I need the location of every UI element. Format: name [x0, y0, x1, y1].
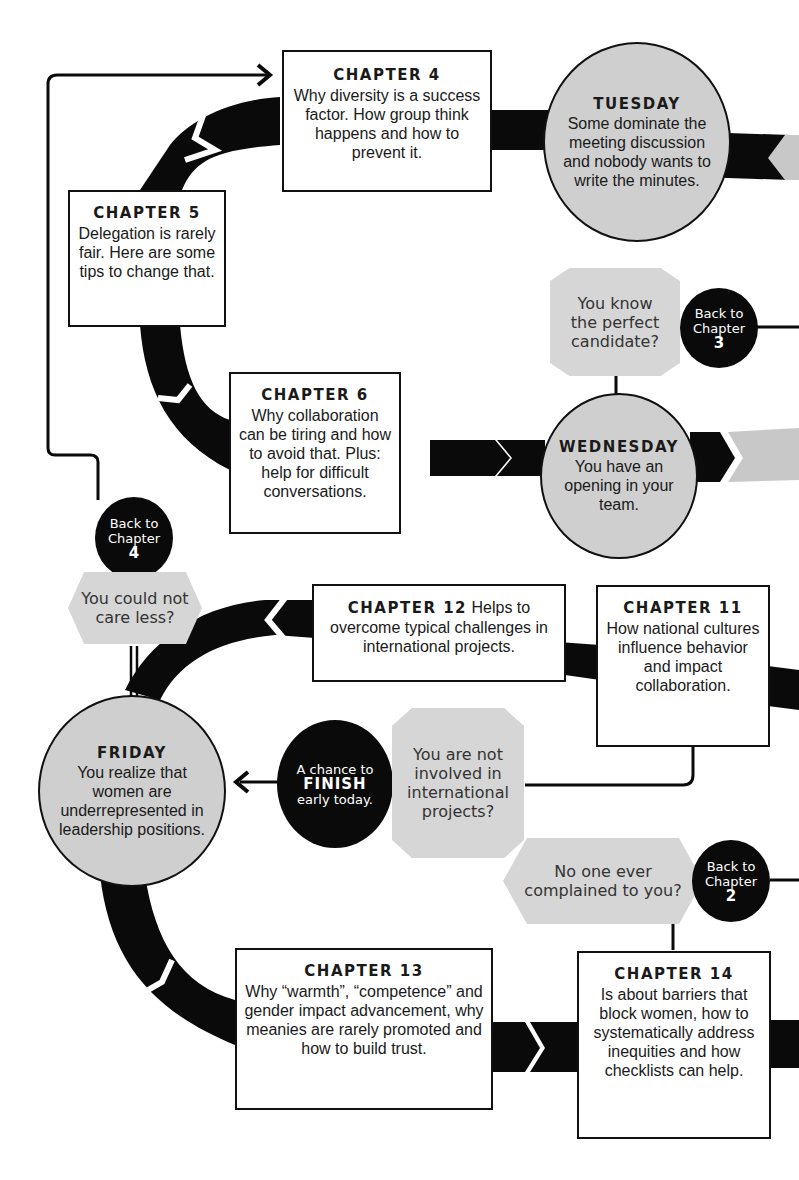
chapter-5-title: CHAPTER 5	[76, 204, 218, 223]
back-to-chapter-2-badge[interactable]: Back to Chapter 2	[692, 840, 770, 922]
badge-line: Back to	[707, 859, 756, 874]
tuesday-title: TUESDAY	[593, 95, 680, 114]
friday-text: You realize that women are underrepresen…	[54, 763, 210, 839]
chapter-14-title: CHAPTER 14	[585, 965, 763, 984]
friday-title: FRIDAY	[97, 744, 167, 763]
wednesday-text: You have an opening in your team.	[552, 457, 686, 514]
tuesday-text: Some dominate the meeting discussion and…	[559, 114, 715, 190]
question-not-international: You are not involved in international pr…	[392, 708, 524, 858]
chapter-11-title: CHAPTER 11	[604, 599, 762, 618]
chapter-14-box: CHAPTER 14 Is about barriers that block …	[577, 951, 771, 1139]
badge-number: 4	[129, 546, 139, 561]
chapter-13-title: CHAPTER 13	[243, 962, 485, 981]
chapter-6-text: Why collaboration can be tiring and how …	[239, 407, 391, 500]
chapter-5-box: CHAPTER 5 Delegation is rarely fair. Her…	[68, 190, 226, 327]
tuesday-node: TUESDAY Some dominate the meeting discus…	[543, 42, 731, 242]
finish-label: FINISH	[303, 777, 366, 792]
badge-number: 2	[726, 889, 736, 904]
chapter-12-box: CHAPTER 12 Helps to overcome typical cha…	[312, 584, 566, 682]
wednesday-node: WEDNESDAY You have an opening in your te…	[540, 393, 698, 559]
question-no-complaints: No one ever complained to you?	[503, 838, 703, 924]
back-to-chapter-3-badge[interactable]: Back to Chapter 3	[680, 288, 758, 368]
chapter-14-text: Is about barriers that block women, how …	[594, 986, 755, 1079]
badge-line: Back to	[695, 306, 744, 321]
finish-early-badge[interactable]: A chance to FINISH early today.	[277, 720, 393, 848]
back-to-chapter-4-badge[interactable]: Back to Chapter 4	[95, 497, 173, 579]
chapter-4-title: CHAPTER 4	[290, 66, 484, 85]
wednesday-title: WEDNESDAY	[559, 438, 679, 457]
question-not-international-text: You are not involved in international pr…	[404, 745, 512, 821]
chapter-11-box: CHAPTER 11 How national cultures influen…	[596, 585, 770, 747]
chapter-4-box: CHAPTER 4 Why diversity is a success fac…	[282, 50, 492, 192]
chapter-13-box: CHAPTER 13 Why “warmth”, “competence” an…	[235, 948, 493, 1110]
chapter-4-text: Why diversity is a success factor. How g…	[294, 87, 481, 161]
question-could-not-care-less: You could not care less?	[68, 572, 202, 644]
question-no-complaints-text: No one ever complained to you?	[517, 862, 689, 900]
friday-node: FRIDAY You realize that women are underr…	[38, 695, 226, 887]
badge-line: Back to	[110, 516, 159, 531]
chapter-6-title: CHAPTER 6	[237, 386, 393, 405]
question-perfect-candidate-text: You know the perfect candidate?	[564, 294, 666, 351]
chapter-13-text: Why “warmth”, “competence” and gender im…	[244, 983, 483, 1057]
badge-line: early today.	[297, 792, 373, 807]
badge-number: 3	[714, 336, 724, 351]
question-could-not-care-less-text: You could not care less?	[78, 589, 192, 627]
chapter-12-title: CHAPTER 12	[348, 599, 467, 617]
chapter-11-text: How national cultures influence behavior…	[607, 620, 760, 694]
question-perfect-candidate: You know the perfect candidate?	[550, 268, 680, 376]
chapter-6-box: CHAPTER 6 Why collaboration can be tirin…	[229, 372, 401, 534]
chapter-5-text: Delegation is rarely fair. Here are some…	[79, 225, 216, 280]
